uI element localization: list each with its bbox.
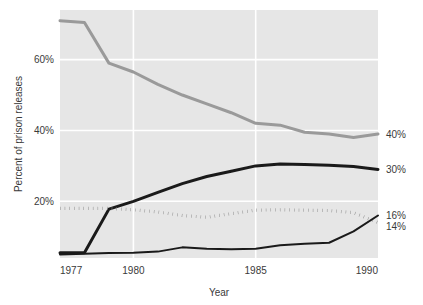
series-end-label: 40%: [386, 129, 406, 140]
y-tick-label: 40%: [34, 125, 54, 136]
x-tick-label: 1990: [356, 265, 379, 276]
y-tick-label: 60%: [34, 54, 54, 65]
series-end-label: 16%: [386, 210, 406, 221]
y-axis-title: Percent of prison releases: [13, 76, 24, 192]
series-end-label: 14%: [386, 221, 406, 232]
x-tick-label: 1977: [60, 265, 83, 276]
line-chart-figure: 20%40%60% 1977198019851990 40%30%16%14% …: [0, 0, 423, 305]
series-end-label: 30%: [386, 164, 406, 175]
x-tick-label: 1985: [245, 265, 268, 276]
y-tick-label: 20%: [34, 196, 54, 207]
x-tick-label: 1980: [122, 265, 145, 276]
x-axis-title: Year: [209, 287, 230, 298]
